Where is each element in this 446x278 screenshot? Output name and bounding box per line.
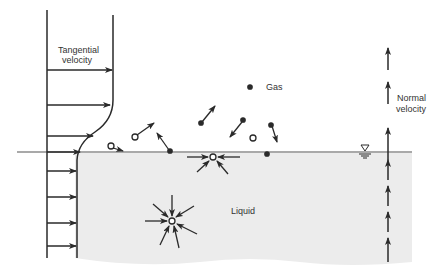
liquid-label: Liquid — [231, 206, 255, 216]
gas-label: Gas — [266, 82, 283, 92]
normal-velocity-label-2: velocity — [396, 104, 427, 114]
normal-velocity-label-1: Normal — [397, 93, 426, 103]
tangential-velocity-label-1: Tangential — [58, 45, 99, 55]
tangential-velocity-label-2: velocity — [62, 55, 93, 65]
gas-molecules — [108, 85, 277, 156]
gas-liquid-interface-diagram: Tangential velocity Gas — [0, 0, 446, 278]
